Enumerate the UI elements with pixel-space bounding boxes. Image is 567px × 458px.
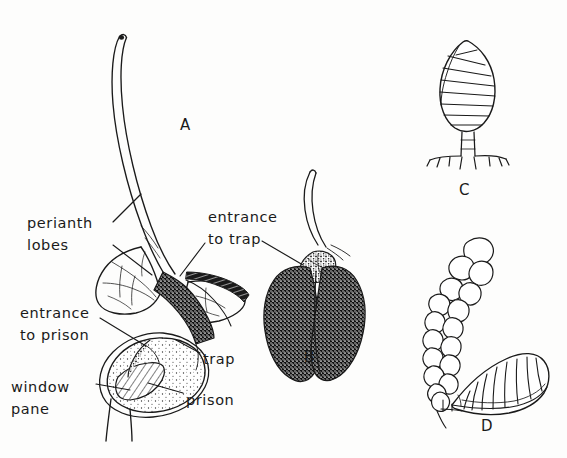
corolla-tube-tail xyxy=(112,35,175,274)
flower-b-lobe-right xyxy=(311,266,365,380)
panel-letter-c: C xyxy=(459,181,470,199)
panel-letter-b: B xyxy=(304,348,315,366)
body-c-outline xyxy=(440,41,495,132)
flower-b-tail-left xyxy=(304,172,318,245)
tube-apex-mark xyxy=(119,35,124,39)
leader-perianth-lobes-upper xyxy=(113,194,141,222)
label-window-pane-line1: window xyxy=(11,379,70,395)
cone-body-d xyxy=(452,354,549,415)
leader-entrance-to-trap-left xyxy=(180,243,205,276)
label-entrance-to-trap-line1: entrance xyxy=(208,209,278,225)
label-entrance-to-prison-line1: entrance xyxy=(20,305,90,321)
label-perianth-lobes-line1: perianth xyxy=(27,215,93,231)
flower-b-tail-right xyxy=(312,173,326,247)
label-entrance-to-prison: entranceto prison xyxy=(20,302,90,346)
leader-entrance-to-prison xyxy=(100,318,146,346)
stalk-c xyxy=(461,132,475,156)
panel-letter-a: A xyxy=(180,116,191,134)
panel-c-banded-body xyxy=(427,41,509,169)
label-perianth-lobes: perianthlobes xyxy=(27,212,93,256)
label-trap: trap xyxy=(203,348,235,370)
label-entrance-to-trap-line2: to trap xyxy=(208,231,261,247)
panel-letter-d: D xyxy=(481,417,493,435)
roots-c xyxy=(427,156,509,169)
label-window-pane: windowpane xyxy=(11,376,70,420)
label-entrance-to-prison-line2: to prison xyxy=(20,327,89,343)
label-entrance-to-trap: entranceto trap xyxy=(208,206,278,250)
panel-d-cone-with-vesicles xyxy=(423,238,549,428)
label-prison: prison xyxy=(186,389,234,411)
label-perianth-lobes-line2: lobes xyxy=(27,237,69,253)
label-window-pane-line2: pane xyxy=(11,401,50,417)
